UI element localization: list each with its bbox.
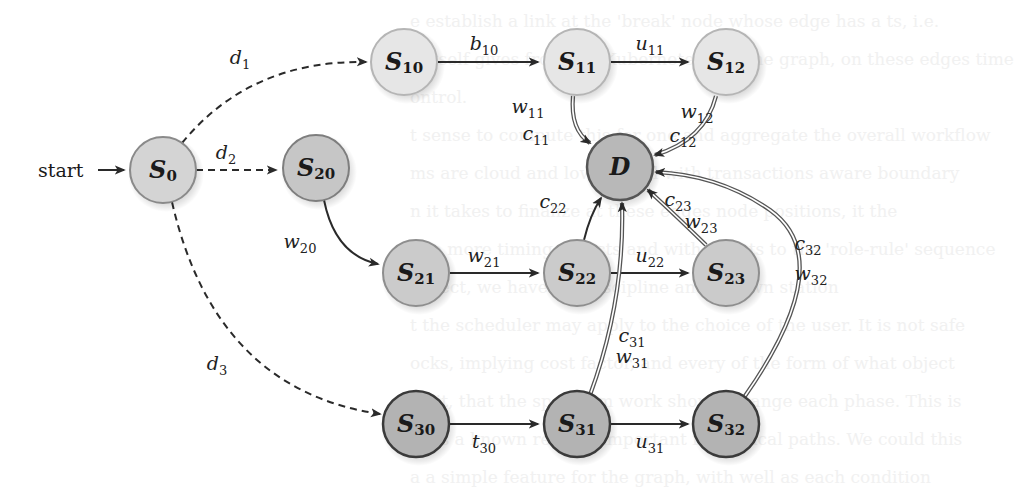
- state-node-s12: S12: [691, 28, 767, 104]
- nodes-layer: S0S10S11S12DS20S21S22S23S30S31S32: [128, 28, 767, 466]
- edge-S22-D: [584, 198, 601, 240]
- edge-label: w12: [681, 100, 714, 126]
- state-node-s30: S30: [381, 390, 457, 466]
- state-node-s11: S11: [542, 28, 618, 104]
- state-node-s10: S10: [369, 28, 445, 104]
- state-node-s31: S31: [542, 390, 618, 466]
- state-node-s21: S21: [381, 239, 457, 315]
- edge-S0-S30: [172, 202, 380, 414]
- edge-label: d2: [216, 141, 236, 167]
- edge-label: c11: [522, 122, 549, 148]
- start-label: start: [38, 159, 84, 181]
- edge-label: b10: [470, 32, 499, 58]
- edge-label: w23: [685, 210, 718, 236]
- edge-label: w11: [512, 95, 545, 121]
- state-node-s23: S23: [691, 239, 767, 315]
- edge-label: u22: [636, 244, 665, 270]
- edge-label: d1: [230, 46, 250, 72]
- state-node-d: D: [585, 133, 661, 209]
- edge-label: c22: [539, 190, 566, 216]
- edge-S20-S21: [324, 200, 378, 264]
- state-node-s22: S22: [542, 239, 618, 315]
- state-node-s32: S32: [691, 390, 767, 466]
- state-node-s20: S20: [281, 134, 357, 210]
- edge-label: u31: [636, 430, 665, 456]
- state-node-s0: S0: [128, 136, 204, 212]
- node-label: D: [609, 152, 631, 181]
- edge-label: u11: [636, 32, 665, 58]
- edge-label: w20: [284, 230, 317, 256]
- edge-S0-S10: [182, 62, 366, 143]
- edge-label: d3: [207, 352, 227, 378]
- edge-label: w21: [468, 244, 501, 270]
- edge-label: t30: [472, 430, 496, 456]
